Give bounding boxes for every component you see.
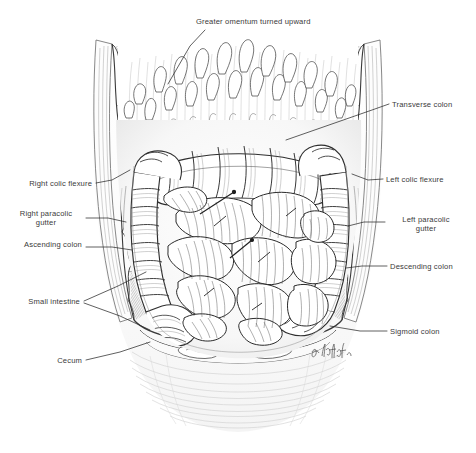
small-intestine-structure (164, 187, 336, 345)
label-transverse-colon: Transverse colon (392, 100, 452, 109)
label-greater-omentum: Greater omentum turned upward (196, 17, 311, 26)
label-left-colic-flexure: Left colic flexure (386, 175, 444, 184)
label-cecum: Cecum (0, 356, 82, 365)
label-left-paracolic-gutter: Left paracolic gutter (390, 215, 462, 234)
label-right-paracolic-gutter: Right paracolic gutter (8, 209, 84, 228)
label-sigmoid-colon: Sigmoid colon (390, 327, 440, 336)
illustration-canvas: Greater omentum turned upward Transverse… (0, 0, 476, 453)
label-descending-colon: Descending colon (390, 262, 453, 271)
label-right-colic-flexure: Right colic flexure (0, 179, 92, 188)
label-small-intestine: Small intestine (0, 297, 80, 306)
label-ascending-colon: Ascending colon (0, 240, 82, 249)
